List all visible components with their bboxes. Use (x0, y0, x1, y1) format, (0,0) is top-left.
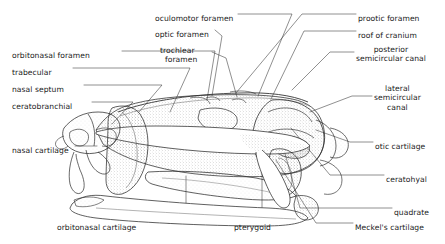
label-ceratohyal: ceratohyal (386, 175, 427, 184)
label-ceratobranchial: ceratobranchial (12, 102, 72, 111)
label-meckels-cartilage: Meckel's cartilage (355, 223, 424, 232)
label-quadrate: quadrate (394, 208, 429, 217)
label-nasal-septum: nasal septum (12, 85, 64, 94)
label-pterygoid: pterygoid (234, 223, 271, 232)
label-orbitonasal-cartilage: orbitonasal cartilage (57, 223, 136, 232)
label-otic-cartilage: otic cartilage (375, 142, 425, 151)
label-lateral-semicircular-canal: lateral semicircular canal (374, 84, 421, 112)
articular-region (294, 195, 318, 220)
occipital-condyle (330, 128, 348, 158)
label-trabecular: trabecular (12, 68, 52, 77)
label-optic-foramen: optic foramen (155, 30, 209, 39)
label-prootic-foramen: prootic foramen (358, 14, 419, 23)
ceratobranchial (69, 152, 84, 194)
label-orbitonasal-foramen: orbitonasal foramen (12, 51, 90, 60)
label-trochlear-foramen: trochlear foramen (160, 46, 197, 65)
label-roof-of-cranium: roof of cranium (358, 31, 417, 40)
skull-drawing (55, 91, 348, 226)
label-oculomotor-foramen: oculomotor foramen (155, 14, 233, 23)
label-nasal-cartilage: nasal cartilage (12, 146, 69, 155)
label-posterior-semicircular-canal: posterior semicircular canal (356, 45, 426, 64)
